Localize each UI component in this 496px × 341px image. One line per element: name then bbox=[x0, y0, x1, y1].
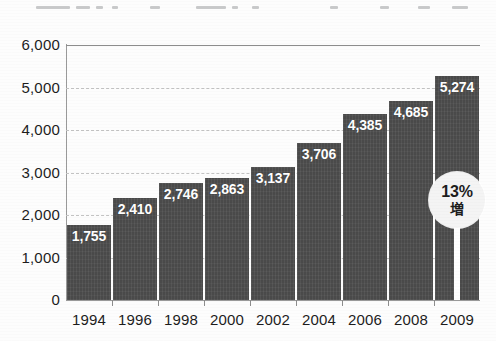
y-axis-tick-label: 4,000 bbox=[4, 121, 60, 138]
bar-value-label: 2,410 bbox=[118, 201, 153, 217]
bar bbox=[297, 143, 340, 301]
x-axis-tick-label: 2006 bbox=[342, 311, 388, 328]
x-axis-tick-label: 2002 bbox=[250, 311, 296, 328]
bar-group: 2,746 bbox=[159, 45, 202, 300]
x-axis-labels: 199419961998200020022004200620082009 bbox=[66, 305, 480, 335]
y-axis-tick-label: 6,000 bbox=[4, 36, 60, 53]
x-axis-tick-label: 1998 bbox=[158, 311, 204, 328]
chart-canvas: 6,0005,0004,0003,0002,0001,0000 1,7552,4… bbox=[0, 0, 496, 341]
y-axis-tick-label: 5,000 bbox=[4, 79, 60, 96]
x-axis-line bbox=[66, 300, 480, 301]
y-axis-tick-label: 1,000 bbox=[4, 249, 60, 266]
x-axis-tick-label: 2009 bbox=[434, 311, 480, 328]
bar-group: 2,863 bbox=[205, 45, 248, 300]
y-axis-tick-label: 2,000 bbox=[4, 206, 60, 223]
bar-group: 3,137 bbox=[251, 45, 294, 300]
bar-value-label: 4,385 bbox=[348, 117, 383, 133]
x-axis-tick-label: 2004 bbox=[296, 311, 342, 328]
x-axis-tick-label: 1996 bbox=[112, 311, 158, 328]
bar-value-label: 3,706 bbox=[302, 146, 337, 162]
y-axis-tick-label: 3,000 bbox=[4, 164, 60, 181]
bar-group: 5,274 bbox=[435, 45, 478, 300]
bar-value-label: 2,863 bbox=[210, 181, 245, 197]
bar-value-label: 1,755 bbox=[72, 228, 107, 244]
bar-group: 3,706 bbox=[297, 45, 340, 300]
bar-group: 4,385 bbox=[343, 45, 386, 300]
bar bbox=[435, 76, 478, 300]
bar-value-label: 5,274 bbox=[440, 79, 475, 95]
bar-series: 1,7552,4102,7462,8633,1373,7064,3854,685… bbox=[66, 45, 480, 300]
bar bbox=[343, 114, 386, 300]
y-axis-tick-label: 0 bbox=[4, 291, 60, 308]
bar-value-label: 4,685 bbox=[394, 104, 429, 120]
bar-value-label: 2,746 bbox=[164, 186, 199, 202]
plot-area: 1,7552,4102,7462,8633,1373,7064,3854,685… bbox=[66, 45, 480, 300]
bar-group: 2,410 bbox=[113, 45, 156, 300]
bar bbox=[251, 167, 294, 300]
x-axis-tick-label: 1994 bbox=[66, 311, 112, 328]
bar-value-label: 3,137 bbox=[256, 170, 291, 186]
bar-group: 1,755 bbox=[67, 45, 110, 300]
x-axis-tick-label: 2008 bbox=[388, 311, 434, 328]
x-axis-tick-label: 2000 bbox=[204, 311, 250, 328]
bar-group: 4,685 bbox=[389, 45, 432, 300]
bar bbox=[389, 101, 432, 300]
